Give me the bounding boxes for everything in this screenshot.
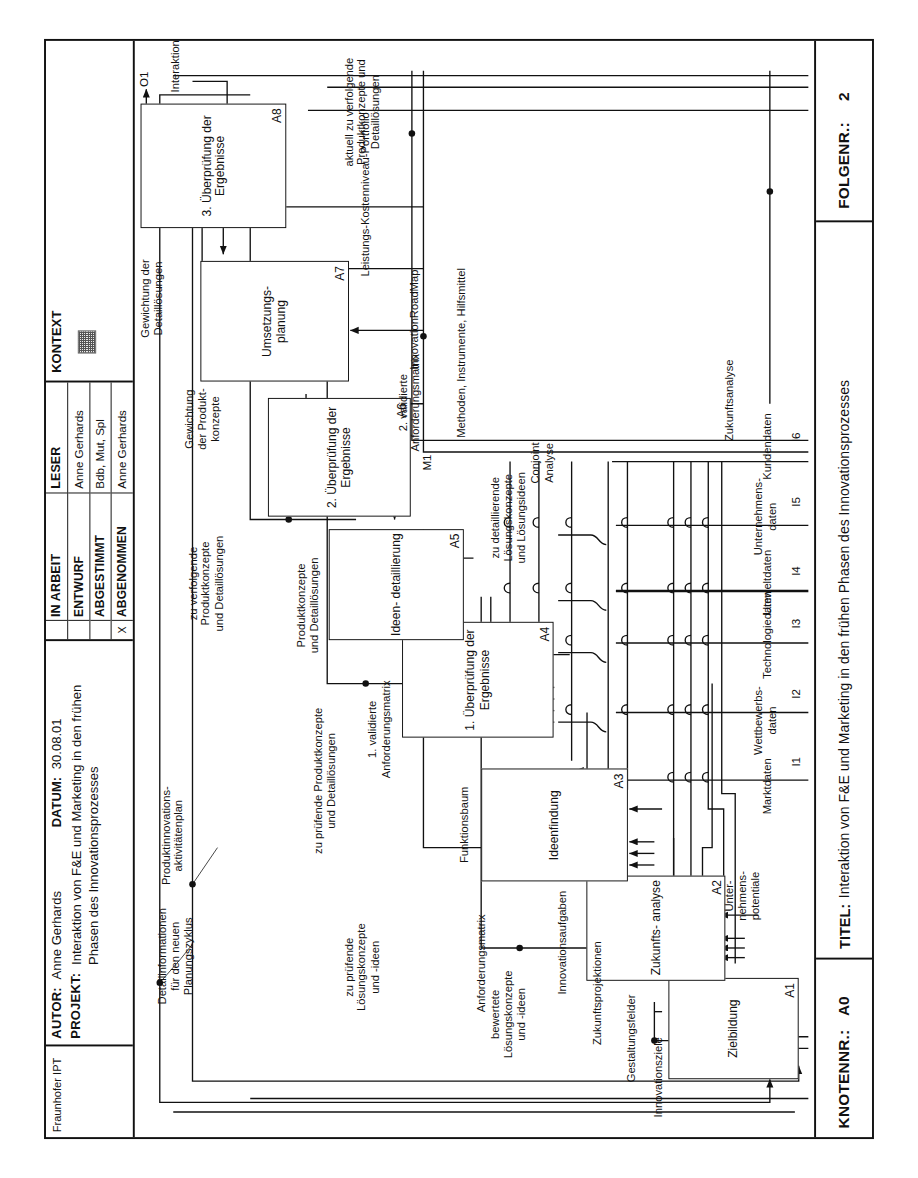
author-value: Anne Gerhards xyxy=(50,891,66,979)
diagram-title-value: Interaktion von F&E und Marketing in den… xyxy=(836,380,851,898)
date-key: DATUM: xyxy=(50,777,66,827)
flow-label-funktionsbaum: Funktionsbaum xyxy=(457,710,470,863)
activity-id: A5 xyxy=(448,534,462,549)
status-row: ABGESTIMMT Bdb, Mut, Spl xyxy=(90,382,112,639)
context-body xyxy=(64,41,133,381)
activity-box-a1[interactable]: Zielbildung A1 xyxy=(668,978,798,1079)
status-row-reader: Anne Gerhards xyxy=(68,382,89,492)
flow-label-produktkonzepte-detailloesungen: Produktkonzepte und Detaillösungen xyxy=(294,523,320,687)
activity-box-a5[interactable]: Ideen- detaillierung A5 xyxy=(328,529,463,641)
status-row-reader: Bdb, Mut, Spl xyxy=(90,382,111,492)
diagram-title-cell: TITEL: Interaktion von F&E und Marketing… xyxy=(816,220,872,957)
reader-header: LESER xyxy=(46,382,67,492)
flow-label-unternehmenspotentiale: Unter- nehmens- potentiale xyxy=(722,836,761,957)
node-number-key: KNOTENNR.: xyxy=(835,1030,852,1129)
activity-id: A4 xyxy=(538,627,552,642)
status-row-name: ENTWURF xyxy=(68,493,89,620)
project-key: PROJEKT: xyxy=(69,973,85,1039)
activity-box-a8[interactable]: 3. Überprüfung der Ergebnisse A8 xyxy=(141,103,286,228)
author-row: AUTOR: Anne Gerhards DATUM: 30.08.01 xyxy=(50,647,66,1039)
idef0-sheet: Fraunhofer IPT AUTOR: Anne Gerhards DATU… xyxy=(44,39,874,1139)
flow-label-conjoint-analyse: Conjoint Analyse xyxy=(529,403,555,524)
flow-label-1-validierte-anforderungsmatrix: 1. validierte Anforderungsmatrix xyxy=(366,653,392,806)
mechanism-label-m1: Methoden, Instrumente, Hilfsmittel xyxy=(454,109,467,438)
diagram-title-key: TITEL: xyxy=(836,904,852,949)
context-thumbnail-icon xyxy=(78,330,96,353)
input-code-i5: I5 xyxy=(789,497,803,507)
status-row-name: IN ARBEIT xyxy=(46,493,67,620)
project-meta: AUTOR: Anne Gerhards DATUM: 30.08.01 PRO… xyxy=(46,639,133,1044)
flow-label-gewichtung-produktkonzepte: Gewichtung der Produkt- konzepte xyxy=(182,348,221,491)
flow-label-zu-pruefende-loesungskonzepte: zu prüfende Lösungskonzepte und -ideen xyxy=(342,896,381,1039)
idef0-diagram-canvas: Zielbildung A1 Zukunfts- analyse A2 Idee… xyxy=(135,41,814,1137)
activity-id: A1 xyxy=(783,983,797,998)
flow-label-gestaltungsfelder: Gestaltungsfelder xyxy=(624,918,637,1082)
flow-label-innovationsaufgaben: Innovationsaufgaben xyxy=(556,797,569,994)
status-table: IN ARBEIT LESER ENTWURF Anne Gerhards AB… xyxy=(46,381,133,640)
organization-label: Fraunhofer IPT xyxy=(46,1044,133,1137)
flow-label-innovationsziele: Innovationsziele xyxy=(651,964,664,1117)
flow-label-leistungs-kostenniveau-portfolio: Leistungs-Kostenniveau-Portfolio xyxy=(359,41,372,277)
input-code-i1: I1 xyxy=(789,757,803,767)
date-value: 30.08.01 xyxy=(50,718,66,769)
flow-label-detailinformationen: Detailinformationen für den neuen Planun… xyxy=(155,874,194,1038)
sequence-number-key: FOLGENR.: xyxy=(835,122,852,209)
flow-label-zu-detaillierende-loesungskonzepte: zu detaillierende Lösungskonzepte und Lö… xyxy=(488,430,527,605)
activity-label: 3. Überprüfung der Ergebnisse xyxy=(200,104,228,227)
status-header-mark xyxy=(46,620,67,639)
status-row: ENTWURF Anne Gerhards xyxy=(68,382,90,639)
title-block: Fraunhofer IPT AUTOR: Anne Gerhards DATU… xyxy=(46,41,135,1137)
activity-label: Umsetzungs- planung xyxy=(261,262,289,381)
activity-label: Zielbildung xyxy=(726,979,740,1078)
footer-block: KNOTENNR.: A0 TITEL: Interaktion von F&E… xyxy=(814,41,872,1137)
flow-label-zukunftsprojektionen: Zukunftsprojektionen xyxy=(590,848,603,1045)
flow-label-zukunftsanalyse: Zukunftsanalyse xyxy=(722,288,735,441)
activity-box-a7[interactable]: Umsetzungs- planung A7 xyxy=(201,261,349,382)
activity-id: A7 xyxy=(333,266,347,281)
idef0-sheet-rotator: Fraunhofer IPT AUTOR: Anne Gerhards DATU… xyxy=(44,39,874,1139)
status-row-mark[interactable] xyxy=(68,620,89,639)
author-key: AUTOR: xyxy=(50,987,66,1039)
activity-box-a6[interactable]: 2. Überprüfung der Ergebnisse A6 xyxy=(268,398,411,516)
screenshot-page: Fraunhofer IPT AUTOR: Anne Gerhards DATU… xyxy=(0,0,918,1178)
input-code-i4: I4 xyxy=(789,566,803,576)
output-label-o1: Interaktionsplan xyxy=(169,41,182,93)
flow-label-bewertete-loesungskonzepte: bewertete Lösungskonzepte und -ideen xyxy=(488,938,527,1091)
project-value: Interaktion von F&E und Marketing in den… xyxy=(69,647,103,965)
node-number-value: A0 xyxy=(835,996,852,1016)
activity-label: 2. Überprüfung der Ergebnisse xyxy=(325,399,353,515)
flow-label-innovationroadmap: InnovationRoadMap xyxy=(406,194,419,369)
flow-label-gewichtung-detailloesungen: Gewichtung der Detaillösungen xyxy=(138,222,164,375)
input-code-i3: I3 xyxy=(789,619,803,629)
input-code-i2: I2 xyxy=(789,689,803,699)
activity-label: Ideen- detaillierung xyxy=(389,530,403,640)
activity-id: A3 xyxy=(613,774,627,789)
flow-label-zu-verfolgende-produktkonzepte: zu verfolgende Produktkonzepte und Detai… xyxy=(186,490,225,676)
status-row-mark[interactable]: X xyxy=(112,620,133,639)
status-row-name: ABGESTIMMT xyxy=(90,493,111,620)
sequence-number-value: 2 xyxy=(835,92,852,101)
status-row: X ABGENOMMEN Anne Gerhards xyxy=(112,382,133,639)
status-row-name: ABGENOMMEN xyxy=(112,493,133,620)
context-cell: KONTEXT xyxy=(46,41,133,381)
node-number-cell: KNOTENNR.: A0 xyxy=(816,958,872,1137)
flow-label-anforderungsmatrix: Anforderungsmatrix xyxy=(474,837,487,1012)
output-code-o1: O1 xyxy=(137,71,151,86)
activity-id: A2 xyxy=(710,880,724,895)
sequence-number-cell: FOLGENR.: 2 xyxy=(816,41,872,220)
status-row-reader: Anne Gerhards xyxy=(112,382,133,492)
context-header: KONTEXT xyxy=(46,41,64,381)
activity-id: A8 xyxy=(271,108,285,123)
input-code-i6: I6 xyxy=(789,432,803,442)
status-header-row: IN ARBEIT LESER xyxy=(46,382,68,639)
input-label-i6: Kundendaten xyxy=(760,392,773,502)
flow-label-zu-pruefende-produktkonzepte: zu prüfende Produktkonzepte und Detaillö… xyxy=(311,666,337,896)
project-row: PROJEKT: Interaktion von F&E und Marketi… xyxy=(69,647,103,1039)
status-row-mark[interactable] xyxy=(90,620,111,639)
activity-box-a3[interactable]: Ideenfindung A3 xyxy=(481,769,628,882)
